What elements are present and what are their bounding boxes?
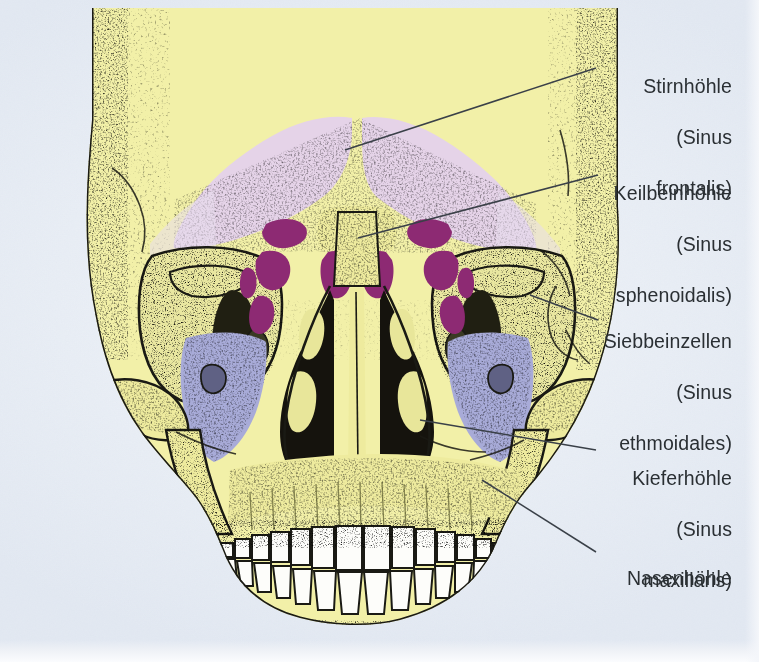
- label-nasenhoehle: Nasenhöhle: [500, 540, 732, 617]
- infraorbital-foramen-left: [201, 365, 226, 393]
- label-keilbeinhoehle-line-2: (Sinus: [500, 232, 732, 258]
- label-keilbeinhoehle-line-1: Keilbeinhöhle: [500, 181, 732, 207]
- label-kieferhoehle-line-2: (Sinus: [500, 517, 732, 543]
- scan-edge-bottom: [0, 640, 759, 662]
- label-siebbeinzellen-line-1: Siebbeinzellen: [500, 329, 732, 355]
- label-nasenhoehle-line-1: Nasenhöhle: [500, 566, 732, 592]
- label-stirnhoehle-line-1: Stirnhöhle: [500, 74, 732, 100]
- scan-edge-right: [745, 0, 759, 662]
- label-kieferhoehle-line-1: Kieferhöhle: [500, 466, 732, 492]
- figure-page: Stirnhöhle (Sinus frontalis) Keilbeinhöh…: [0, 0, 759, 662]
- maxilla-body: [228, 454, 520, 530]
- label-stirnhoehle-line-2: (Sinus: [500, 125, 732, 151]
- label-siebbeinzellen-line-2: (Sinus: [500, 380, 732, 406]
